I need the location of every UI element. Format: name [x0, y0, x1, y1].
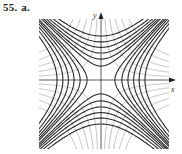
x-axis-label: x [170, 85, 175, 94]
curve [0, 0, 182, 42]
y-axis-label: y [92, 11, 97, 20]
curve [0, 124, 182, 154]
x-axis-arrow-icon [169, 78, 176, 83]
curve [14, 0, 100, 66]
axes: x y [39, 11, 176, 149]
hyperbola-plot: x y [0, 0, 182, 154]
curve [14, 0, 100, 70]
y-axis-arrow-icon [99, 12, 104, 19]
curve [102, 0, 182, 70]
curve [0, 0, 63, 154]
